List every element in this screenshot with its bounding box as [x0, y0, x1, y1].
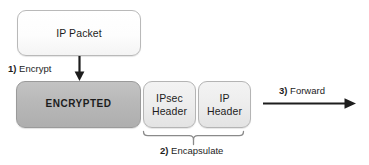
encrypted-label: ENCRYPTED: [46, 98, 112, 111]
step-2-number: 2): [160, 145, 168, 156]
ip-packet-box: IP Packet: [17, 10, 141, 56]
step-3-forward-label: 3) Forward: [279, 85, 325, 96]
curly-brace-icon: [144, 132, 244, 145]
step-2-encapsulate-label: 2) Encapsulate: [160, 145, 223, 156]
ip-header-line2: Header: [207, 105, 242, 117]
ip-header-label: IP Header: [207, 92, 242, 117]
ip-header-box: IP Header: [198, 81, 251, 128]
ipsec-encapsulation-diagram: IP Packet ENCRYPTED IPsec Header IP Head…: [0, 0, 369, 165]
right-arrow-icon: [263, 98, 356, 108]
step-2-text: Encapsulate: [171, 145, 223, 156]
encrypted-payload-box: ENCRYPTED: [16, 81, 141, 128]
down-arrow-icon: [75, 56, 85, 81]
ip-packet-label: IP Packet: [56, 27, 102, 40]
step-1-text: Encrypt: [19, 63, 51, 74]
ipsec-header-line2: Header: [152, 105, 187, 117]
step-1-number: 1): [8, 63, 16, 74]
ipsec-header-label: IPsec Header: [152, 92, 187, 117]
ip-header-line1: IP: [219, 92, 229, 104]
step-1-encrypt-label: 1) Encrypt: [8, 63, 51, 74]
ipsec-header-line1: IPsec: [156, 92, 183, 104]
ipsec-header-box: IPsec Header: [143, 81, 196, 128]
step-3-text: Forward: [290, 85, 325, 96]
step-3-number: 3): [279, 85, 287, 96]
